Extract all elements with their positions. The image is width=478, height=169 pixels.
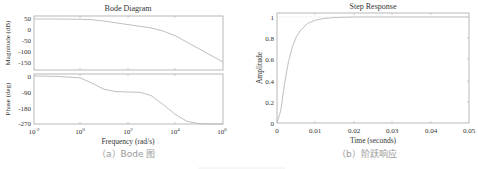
- step-axes: [277, 13, 469, 123]
- magnitude-ytick-labels: 50 0 -50 -100 -150: [18, 15, 31, 67]
- svg-text:0.01: 0.01: [309, 127, 322, 135]
- svg-text:0.05: 0.05: [463, 127, 476, 135]
- phase-tick: -270: [18, 120, 31, 128]
- mag-tick: 0: [28, 26, 32, 34]
- phase-tick: -180: [18, 105, 31, 113]
- step-xtick-labels: 0 0.01 0.02 0.03 0.04 0.05: [275, 127, 475, 135]
- phase-ylabel: Phase (deg): [4, 82, 12, 116]
- bode-xlabel: Frequency (rad/s): [101, 137, 155, 146]
- phase-curve: [34, 76, 223, 124]
- svg-text:1: 1: [271, 14, 275, 22]
- mag-tick: 50: [24, 15, 32, 23]
- svg-text:104: 104: [170, 127, 180, 136]
- phase-tick: -90: [22, 89, 32, 97]
- svg-text:102: 102: [123, 127, 133, 136]
- mag-tick: -100: [18, 48, 31, 56]
- phase-ytick-labels: 0 -90 -180 -270: [18, 73, 31, 129]
- bode-xtick-labels: 10-2 100 102 104 106: [28, 127, 227, 136]
- step-curve: [277, 17, 469, 123]
- magnitude-curve: [34, 19, 223, 62]
- step-caption: （b）阶跃响应: [337, 147, 397, 160]
- svg-text:0.03: 0.03: [386, 127, 399, 135]
- phase-tick: 0: [28, 73, 32, 81]
- mag-tick: -150: [18, 59, 31, 67]
- bode-caption: （a）Bode 图: [97, 147, 155, 160]
- magnitude-axes: [34, 16, 223, 70]
- step-ylabel: Amplitude: [255, 51, 264, 84]
- svg-text:0.4: 0.4: [265, 78, 274, 86]
- svg-text:0.8: 0.8: [265, 35, 274, 43]
- svg-text:0.2: 0.2: [265, 99, 274, 107]
- svg-text:0.04: 0.04: [425, 127, 438, 135]
- step-title: Step Response: [350, 2, 397, 11]
- step-tick-marks: [315, 13, 469, 123]
- bode-title: Bode Diagram: [105, 4, 153, 13]
- svg-text:100: 100: [75, 127, 85, 136]
- step-xlabel: Time (seconds): [350, 136, 397, 145]
- svg-text:0: 0: [275, 127, 279, 135]
- figure-canvas: Bode Diagram 50 0 -50 -100 -150 0 -90 -1…: [0, 0, 478, 169]
- mag-tick: -50: [22, 37, 32, 45]
- step-response: Step Response 1 0.8 0.6 0.4 0.2 0 Amplit…: [255, 2, 476, 145]
- svg-text:0: 0: [271, 120, 275, 128]
- svg-text:106: 106: [217, 127, 227, 136]
- magnitude-ylabel: Magnitude (dB): [4, 20, 12, 66]
- bode-diagram: Bode Diagram 50 0 -50 -100 -150 0 -90 -1…: [4, 4, 227, 146]
- svg-text:0.02: 0.02: [348, 127, 361, 135]
- svg-text:0.6: 0.6: [265, 56, 274, 64]
- phase-axes: [34, 74, 223, 124]
- step-ytick-labels: 1 0.8 0.6 0.4 0.2 0: [265, 14, 274, 128]
- svg-text:10-2: 10-2: [28, 127, 40, 136]
